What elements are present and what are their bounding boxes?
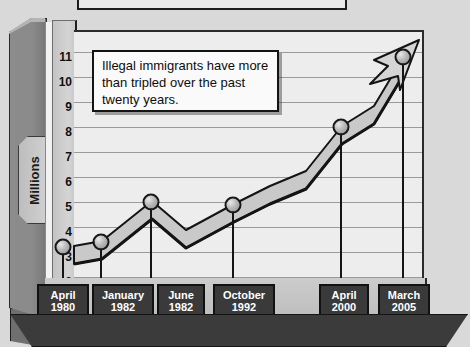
x-label-october-1992[interactable]: October 1992	[213, 284, 275, 318]
x-label-january-1982-year: 1982	[98, 301, 148, 313]
chart-3d-frame: Millions 11 10 9 8 7 6 5 4 3 2	[4, 8, 466, 337]
x-label-june-1982[interactable]: June 1982	[157, 284, 205, 318]
leader-line-april-2000	[340, 126, 342, 284]
y-tick-5: 5	[54, 201, 72, 213]
x-label-april-1980-month: April	[43, 289, 83, 301]
data-point-march-2005[interactable]	[395, 49, 412, 66]
x-label-june-1982-year: 1982	[163, 301, 199, 313]
y-axis-title: Millions	[27, 156, 42, 204]
data-point-april-2000[interactable]	[333, 119, 350, 136]
x-label-april-1980[interactable]: April 1980	[37, 284, 89, 318]
x-label-april-2000-month: April	[325, 289, 363, 301]
x-label-june-1982-month: June	[163, 289, 199, 301]
x-label-march-2005[interactable]: March 2005	[378, 284, 430, 318]
x-label-october-1992-month: October	[219, 289, 269, 301]
y-tick-11: 11	[54, 51, 72, 63]
leader-line-october-1992	[232, 204, 234, 284]
x-label-january-1982-month: January	[98, 289, 148, 301]
y-tick-6: 6	[54, 176, 72, 188]
y-tick-9: 9	[54, 101, 72, 113]
y-tick-10: 10	[54, 76, 72, 88]
data-point-october-1992[interactable]	[225, 197, 242, 214]
callout-box: Illegal immigrants have more than triple…	[92, 50, 279, 112]
x-label-april-2000[interactable]: April 2000	[319, 284, 369, 318]
leader-line-march-2005	[402, 56, 404, 284]
x-label-april-1980-year: 1980	[43, 301, 83, 313]
data-point-april-1980[interactable]	[55, 239, 72, 256]
x-label-march-2005-month: March	[384, 289, 424, 301]
x-label-march-2005-year: 2005	[384, 301, 424, 313]
base-platform	[10, 314, 468, 347]
x-label-october-1992-year: 1992	[219, 301, 269, 313]
callout-text: Illegal immigrants have more than triple…	[102, 57, 269, 108]
leader-line-june-1982	[150, 201, 152, 284]
x-label-april-2000-year: 2000	[325, 301, 363, 313]
y-tick-8: 8	[54, 126, 72, 138]
y-tick-4: 4	[54, 226, 72, 238]
x-label-january-1982[interactable]: January 1982	[92, 284, 154, 318]
data-point-june-1982[interactable]	[143, 194, 160, 211]
data-point-january-1982[interactable]	[93, 234, 110, 251]
y-tick-7: 7	[54, 151, 72, 163]
